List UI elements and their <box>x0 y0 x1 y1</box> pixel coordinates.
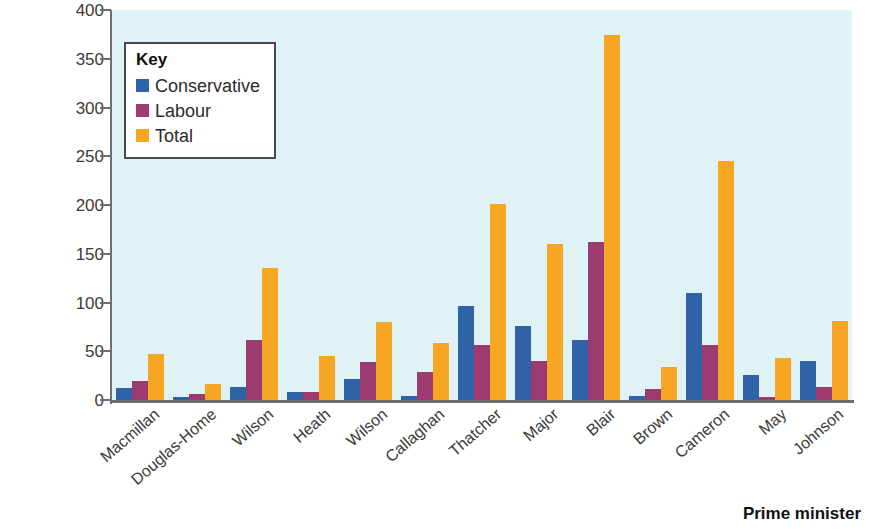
x-axis-tick-label-text: Heath <box>291 406 334 446</box>
bar-group <box>515 10 563 400</box>
bar-conservative <box>515 326 531 400</box>
bar-total <box>718 161 734 400</box>
x-axis-tick-label: Thatcher <box>446 406 504 459</box>
x-axis-tick-label: Wilson <box>344 406 391 450</box>
x-axis-tick-label-text: Brown <box>631 406 676 448</box>
legend-item-total: Total <box>136 123 260 148</box>
clipped-header-text <box>108 0 708 4</box>
x-axis-tick-label: Cameron <box>672 406 732 461</box>
bar-total <box>319 356 335 400</box>
legend-item-label: Total <box>155 127 193 145</box>
bar-conservative <box>743 375 759 400</box>
bar-total <box>490 204 506 400</box>
bar-labour <box>303 392 319 400</box>
bar-labour <box>702 345 718 400</box>
bar-total <box>547 244 563 400</box>
bar-group <box>686 10 734 400</box>
y-axis-tick-label: 0 <box>52 392 104 409</box>
legend-item-label: Conservative <box>155 77 260 95</box>
x-axis-tick-label-text: Blair <box>584 406 619 439</box>
y-axis-tick-label: 150 <box>52 245 104 262</box>
bar-total <box>205 384 221 400</box>
bar-group <box>629 10 677 400</box>
x-axis-tick-label-text: May <box>756 406 789 438</box>
x-axis-tick-label-text: Wilson <box>344 406 391 450</box>
x-axis-tick-label: May <box>756 406 789 438</box>
bar-total <box>604 35 620 400</box>
bar-group <box>344 10 392 400</box>
y-axis-tick-label: 300 <box>52 99 104 116</box>
y-axis-tick-mark <box>100 58 111 60</box>
legend-box: Key ConservativeLabourTotal <box>124 42 276 159</box>
y-axis-tick-mark <box>100 399 111 401</box>
bar-labour <box>360 362 376 400</box>
y-axis-tick-label: 350 <box>52 50 104 67</box>
bar-total <box>832 321 848 400</box>
y-axis-tick-mark <box>100 350 111 352</box>
y-axis-tick-mark <box>100 107 111 109</box>
y-axis-title: Number of life peerages <box>2 0 32 70</box>
bar-conservative <box>686 293 702 400</box>
bar-group <box>743 10 791 400</box>
chart-root: Number of life peerages 4003503002502001… <box>0 0 869 530</box>
y-axis-tick-mark <box>100 204 111 206</box>
x-axis-tick-label: Wilson <box>230 406 277 450</box>
legend-item-conservative: Conservative <box>136 73 260 98</box>
x-axis-tick-label-text: Cameron <box>672 406 732 461</box>
bar-labour <box>474 345 490 400</box>
y-axis-tick-label: 250 <box>52 148 104 165</box>
bar-conservative <box>116 388 132 400</box>
bar-total <box>661 367 677 400</box>
bar-labour <box>132 381 148 401</box>
bar-conservative <box>287 392 303 400</box>
y-axis-tick-label: 100 <box>52 294 104 311</box>
bar-labour <box>417 372 433 400</box>
bar-group <box>401 10 449 400</box>
x-axis-title: Prime minister <box>743 504 861 524</box>
legend-swatch-icon <box>136 79 149 92</box>
bar-total <box>775 358 791 400</box>
bar-conservative <box>173 397 189 400</box>
x-axis-tick-label: Johnson <box>790 406 846 458</box>
bar-conservative <box>230 387 246 400</box>
bar-labour <box>189 394 205 400</box>
legend-entries: ConservativeLabourTotal <box>136 73 260 148</box>
x-axis-tick-label-text: Callaghan <box>383 406 448 465</box>
y-axis-tick-label: 200 <box>52 197 104 214</box>
x-axis-tick-label-text: Major <box>521 406 562 444</box>
x-axis-tick-label: Major <box>521 406 562 444</box>
x-axis-tick-label: Brown <box>631 406 676 448</box>
bar-group <box>458 10 506 400</box>
x-axis-tick-label-text: Wilson <box>230 406 277 450</box>
bar-total <box>262 268 278 400</box>
bar-group <box>800 10 848 400</box>
bar-total <box>433 343 449 400</box>
bar-conservative <box>629 396 645 400</box>
bar-total <box>148 354 164 400</box>
bar-labour <box>531 361 547 400</box>
legend-title: Key <box>136 50 260 70</box>
y-axis-tick-label: 400 <box>52 2 104 19</box>
x-axis-tick-label: Callaghan <box>383 406 448 465</box>
y-axis-tick-mark <box>100 9 111 11</box>
x-axis-tick-label-text: Thatcher <box>446 406 504 459</box>
y-axis-tick-mark <box>100 155 111 157</box>
bar-conservative <box>572 340 588 400</box>
bar-conservative <box>800 361 816 400</box>
y-axis-tick-mark <box>100 253 111 255</box>
y-axis-tick-label: 50 <box>52 343 104 360</box>
bar-conservative <box>458 306 474 400</box>
legend-item-label: Labour <box>155 102 211 120</box>
legend-item-labour: Labour <box>136 98 260 123</box>
bar-conservative <box>401 396 417 400</box>
legend-swatch-icon <box>136 104 149 117</box>
bar-total <box>376 322 392 400</box>
bar-labour <box>816 387 832 400</box>
y-axis-tick-mark <box>100 302 111 304</box>
x-axis-tick-label-text: Johnson <box>790 406 846 458</box>
bar-labour <box>645 389 661 400</box>
bar-labour <box>246 340 262 400</box>
x-axis-tick-label: Heath <box>291 406 334 446</box>
x-axis-tick-label: Blair <box>584 406 619 439</box>
bar-group <box>287 10 335 400</box>
